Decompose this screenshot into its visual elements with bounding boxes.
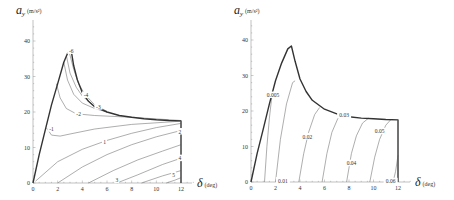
chart-panel-right: 024681012010203040ay(m/s²)δ(deg)0.0050.0… <box>234 3 435 191</box>
contour-line <box>69 52 107 112</box>
y-tick-label: 10 <box>242 144 248 150</box>
y-tick-label: 20 <box>24 109 30 115</box>
contour-label: 0.03 <box>339 112 349 118</box>
envelope-boundary <box>33 51 181 183</box>
contour-label: -4 <box>84 92 89 98</box>
envelope-boundary <box>251 46 398 182</box>
contour-line <box>299 108 320 183</box>
contour-line <box>58 131 181 184</box>
contour-label: 2 <box>178 129 181 135</box>
x-tick-label: 8 <box>130 186 133 192</box>
contour-line <box>347 118 369 182</box>
y-tick-label: 0 <box>27 180 30 186</box>
contour-line <box>89 145 182 183</box>
y-tick-label: 40 <box>24 38 30 44</box>
contour-label: -2 <box>76 111 81 117</box>
contour-label: -3 <box>96 104 101 110</box>
x-tick-label: 12 <box>395 185 401 191</box>
x-tick-label: 2 <box>274 185 277 191</box>
x-tick-label: 4 <box>299 185 302 191</box>
contour-label: 5 <box>172 172 175 178</box>
y-tick-label: 20 <box>242 108 248 114</box>
contour-label: 0.02 <box>303 134 313 140</box>
y-axis-label: ay(m/s²) <box>234 3 260 18</box>
x-tick-label: 0 <box>32 186 35 192</box>
x-tick-label: 12 <box>178 186 184 192</box>
contour-label: 0.04 <box>347 160 357 166</box>
y-axis-label: ay(m/s²) <box>16 3 42 18</box>
contour-line <box>47 121 181 136</box>
x-tick-label: 4 <box>81 186 84 192</box>
contour-label: 3 <box>115 177 118 183</box>
y-tick-label: 40 <box>242 37 248 43</box>
chart-canvas: 024681012010203040ay(m/s²)δ(deg)-6-4-3-2… <box>0 0 454 200</box>
contour-label: 4 <box>178 155 181 161</box>
chart-panel-left: 024681012010203040ay(m/s²)δ(deg)-6-4-3-2… <box>16 3 217 192</box>
x-axis-label: δ(deg) <box>197 176 217 190</box>
contour-label: 1 <box>103 139 106 145</box>
y-tick-label: 30 <box>242 73 248 79</box>
x-axis-label: δ(deg) <box>415 175 435 189</box>
x-tick-label: 6 <box>323 185 326 191</box>
contour-label: -6 <box>69 48 74 54</box>
contour-label: 0.06 <box>386 178 396 184</box>
y-tick-label: 30 <box>24 74 30 80</box>
contour-line <box>322 114 343 182</box>
x-tick-label: 10 <box>371 185 377 191</box>
x-tick-label: 0 <box>250 185 253 191</box>
contour-label: -1 <box>49 126 54 132</box>
y-tick-label: 10 <box>24 145 30 151</box>
contour-label: 0.05 <box>375 128 385 134</box>
x-tick-label: 8 <box>348 185 351 191</box>
y-tick-label: 0 <box>245 179 248 185</box>
x-tick-label: 10 <box>153 186 159 192</box>
contour-label: 0.01 <box>278 178 288 184</box>
x-tick-label: 2 <box>56 186 59 192</box>
contour-line <box>166 178 181 183</box>
contour-line <box>117 158 181 183</box>
x-tick-label: 6 <box>106 186 109 192</box>
contour-label: 0.005 <box>267 92 280 98</box>
